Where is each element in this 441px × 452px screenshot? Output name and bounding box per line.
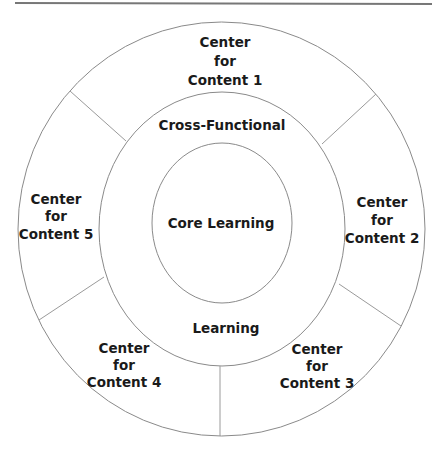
segment-2-line-2: for	[371, 212, 393, 228]
segment-1-line-2: for	[214, 53, 236, 69]
segment-content-3: Center for Content 3	[280, 341, 355, 391]
segment-content-5: Center for Content 5	[19, 191, 94, 242]
segment-3-line-3: Content 3	[280, 375, 355, 391]
segment-3-line-1: Center	[292, 341, 343, 357]
diagram-canvas: Core Learning Cross-Functional Learning …	[0, 0, 441, 452]
segment-4-line-3: Content 4	[87, 374, 162, 390]
segment-content-1: Center for Content 1	[188, 34, 263, 88]
segment-5-line-3: Content 5	[19, 226, 94, 242]
middle-ring-label-bottom: Learning	[192, 320, 259, 336]
segment-2-line-3: Content 2	[345, 230, 420, 246]
segment-5-line-2: for	[45, 208, 67, 224]
segment-2-line-1: Center	[357, 194, 408, 210]
segment-1-line-3: Content 1	[188, 72, 263, 88]
divider-2-3	[339, 284, 401, 326]
segment-content-4: Center for Content 4	[87, 340, 162, 390]
divider-4-5	[39, 277, 104, 320]
segment-5-line-1: Center	[31, 191, 82, 207]
top-rule	[15, 3, 432, 4]
core-label: Core Learning	[168, 215, 275, 231]
middle-ring-label-top: Cross-Functional	[159, 117, 286, 133]
divider-1-5	[70, 91, 126, 141]
divider-1-2	[322, 94, 376, 144]
segment-4-line-2: for	[113, 357, 135, 373]
segment-3-line-2: for	[306, 358, 328, 374]
segment-1-line-1: Center	[200, 34, 251, 50]
segment-4-line-1: Center	[99, 340, 150, 356]
segment-content-2: Center for Content 2	[345, 194, 420, 246]
